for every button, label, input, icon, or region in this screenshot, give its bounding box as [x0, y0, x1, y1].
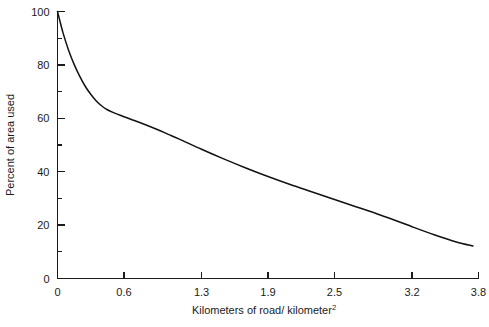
- y-tick-label: 80: [37, 59, 49, 71]
- data-series-path: [58, 12, 473, 246]
- x-axis-title-main: Kilometers of road/ kilometer: [192, 304, 332, 316]
- x-tick-label: 2.5: [327, 286, 342, 298]
- y-tick-label: 60: [37, 112, 49, 124]
- data-series-line: [58, 12, 473, 246]
- x-tick-label: 1.3: [194, 286, 209, 298]
- axis-titles: Percent of area usedKilometers of road/ …: [4, 94, 336, 316]
- x-axis-title-superscript: 2: [332, 303, 336, 312]
- line-chart: 020406080100 00.61.31.92.53.23.8 Percent…: [0, 0, 489, 327]
- x-axis: 00.61.31.92.53.23.8: [54, 272, 486, 298]
- x-tick-label: 0.6: [116, 286, 131, 298]
- chart-figure: 020406080100 00.61.31.92.53.23.8 Percent…: [0, 0, 489, 327]
- y-axis: 020406080100: [31, 6, 64, 285]
- y-tick-label: 40: [37, 166, 49, 178]
- y-tick-label: 20: [37, 219, 49, 231]
- x-tick-label: 3.8: [471, 286, 486, 298]
- y-tick-label: 0: [43, 273, 49, 285]
- x-tick-label: 0: [54, 286, 60, 298]
- x-tick-label: 1.9: [260, 286, 275, 298]
- x-axis-title: Kilometers of road/ kilometer2: [192, 303, 336, 316]
- x-tick-label: 3.2: [404, 286, 419, 298]
- y-axis-title: Percent of area used: [4, 94, 16, 196]
- y-tick-label: 100: [31, 6, 49, 18]
